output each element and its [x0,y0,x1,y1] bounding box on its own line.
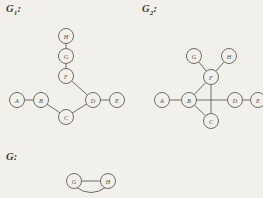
node-label: C [64,114,69,121]
node-label: B [187,97,191,104]
node-label: G [64,53,69,60]
graph-node[interactable]: G [59,49,74,64]
figure-label-g-main: G [6,151,14,162]
graph-node[interactable]: H [101,174,116,189]
figure-label-g2: G2: [142,4,157,17]
node-label: A [14,97,19,104]
node-circle [182,93,197,108]
graph-node[interactable]: H [59,29,74,44]
graph-node[interactable]: G [187,49,202,64]
graph-node[interactable]: E [110,93,125,108]
graph-node[interactable]: F [59,69,74,84]
node-circle [86,93,101,108]
node-circle [34,93,49,108]
node-label: F [63,73,68,80]
graph-node[interactable]: C [204,114,219,129]
edge-layer [25,44,251,193]
graph-node[interactable]: D [86,93,101,108]
node-circle [187,49,202,64]
node-label: E [114,97,119,104]
node-circle [67,174,82,189]
node-label: C [209,118,214,125]
graph-node[interactable]: D [228,93,243,108]
figure-label-g2-suffix: : [154,3,158,14]
node-layer: ABCDEFGHABCDEFGHGH [10,29,264,189]
node-label: D [90,97,96,104]
graph-edge [194,82,206,94]
node-circle [228,93,243,108]
graph-edge [47,104,60,113]
graph-node[interactable]: A [155,93,170,108]
node-circle [204,70,219,85]
figure-label-g1-suffix: : [18,3,22,14]
graph-edge [216,62,224,72]
graph-node[interactable]: G [67,174,82,189]
graph-node[interactable]: B [34,93,49,108]
figure-label-g-suffix: : [14,151,18,162]
graph-node[interactable]: A [10,93,25,108]
node-label: H [63,33,69,40]
node-label: F [208,74,213,81]
node-label: G [72,178,77,185]
figure-label-g: G: [6,152,18,165]
figure-label-g1: G1: [6,4,21,17]
node-label: G [192,53,197,60]
graph-node[interactable]: C [59,110,74,125]
graph-edge [72,81,88,95]
graph-edge [199,62,207,71]
node-label: E [255,97,260,104]
node-circle [155,93,170,108]
node-circle [59,49,74,64]
graph-node[interactable]: E [251,93,264,108]
node-label: D [232,97,238,104]
graph-edge [194,105,205,116]
graph-node[interactable]: H [222,49,237,64]
graph-edge [76,187,106,192]
node-label: H [226,53,232,60]
node-label: B [39,97,43,104]
node-circle [101,174,116,189]
graph-node[interactable]: F [204,70,219,85]
node-circle [10,93,25,108]
node-circle [204,114,219,129]
node-circle [59,69,74,84]
graph-edge [72,104,86,113]
figure-page: G1: G2: G: ABCDEFGHABCDEFGHGH [0,0,263,198]
node-circle [222,49,237,64]
node-label: A [159,97,164,104]
node-label: H [105,178,111,185]
node-circle [251,93,264,108]
figure-label-g2-main: G [142,3,150,14]
graph-canvas: ABCDEFGHABCDEFGHGH [0,0,263,198]
node-circle [59,110,74,125]
figure-label-g1-main: G [6,3,14,14]
node-circle [59,29,74,44]
graph-node[interactable]: B [182,93,197,108]
node-circle [110,93,125,108]
